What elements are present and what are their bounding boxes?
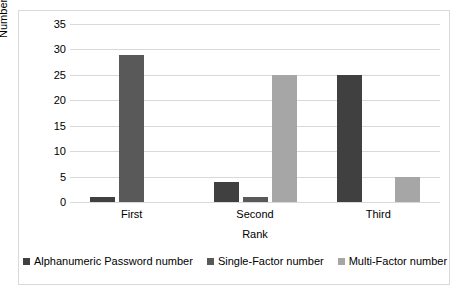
bar: [243, 197, 268, 202]
legend-item[interactable]: Alphanumeric Password number: [23, 255, 193, 267]
x-axis-category-label: First: [70, 208, 193, 220]
legend-item[interactable]: Multi-Factor number: [338, 255, 447, 267]
y-axis-tick-label: 35: [42, 19, 66, 30]
y-axis-tick-label: 5: [42, 172, 66, 183]
y-axis-title: Number of Participants: [0, 0, 9, 52]
legend-label: Single-Factor number: [218, 255, 324, 267]
legend-swatch-icon: [23, 258, 30, 265]
legend-swatch-icon: [207, 258, 214, 265]
bar: [337, 75, 362, 202]
y-axis-tick-label: 15: [42, 121, 66, 132]
legend-item[interactable]: Single-Factor number: [207, 255, 324, 267]
y-axis-tick-label: 10: [42, 146, 66, 157]
legend-swatch-icon: [338, 258, 345, 265]
gridline: [70, 49, 440, 50]
bar: [272, 75, 297, 202]
bar: [395, 177, 420, 202]
y-axis-tick-label: 30: [42, 44, 66, 55]
bar: [214, 182, 239, 202]
y-axis-tick-labels: 05101520253035: [38, 24, 66, 202]
plot-area: [70, 24, 440, 202]
x-axis-category-label: Third: [317, 208, 440, 220]
bar: [119, 55, 144, 202]
legend-label: Multi-Factor number: [349, 255, 447, 267]
x-axis-category-label: Second: [193, 208, 316, 220]
y-axis-tick-label: 20: [42, 95, 66, 106]
gridline: [70, 24, 440, 25]
gridline: [70, 202, 440, 203]
bar-chart-figure: Number of Participants 05101520253035 Ra…: [0, 0, 468, 295]
y-axis-tick-label: 25: [42, 70, 66, 81]
chart-legend: Alphanumeric Password numberSingle-Facto…: [30, 255, 440, 267]
x-axis-title: Rank: [70, 228, 440, 240]
bar: [90, 197, 115, 202]
y-axis-tick-label: 0: [42, 197, 66, 208]
legend-label: Alphanumeric Password number: [34, 255, 193, 267]
